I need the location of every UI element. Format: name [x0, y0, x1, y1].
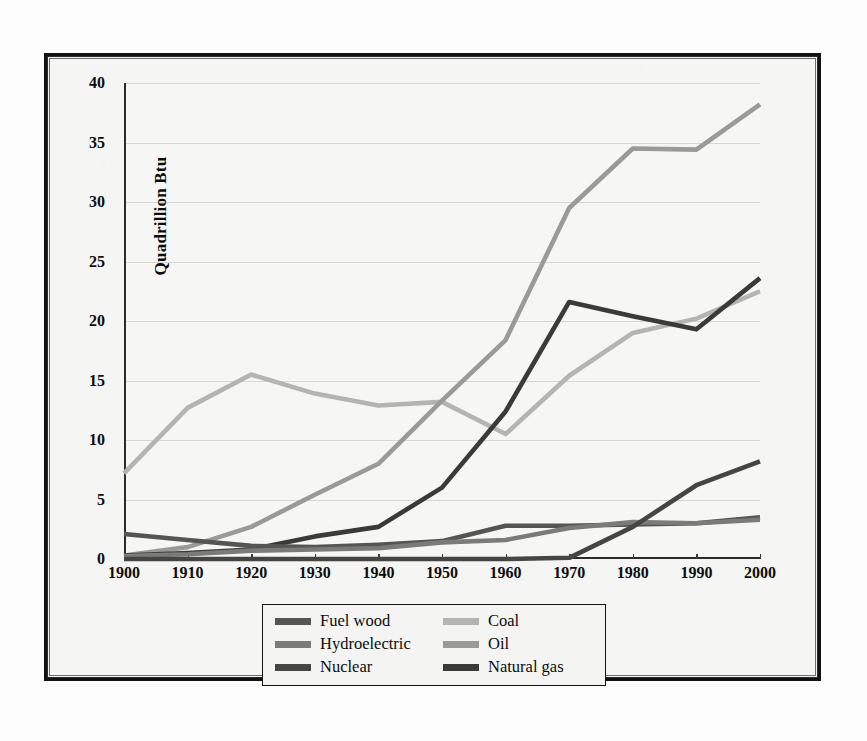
figure-frame: Quadrillion Btu 051015202530354019001910…: [44, 53, 821, 681]
x-tick-label: 1950: [407, 564, 477, 582]
legend-label: Fuel wood: [320, 612, 390, 631]
legend: Fuel woodCoalHydroelectricOilNuclearNatu…: [262, 604, 606, 686]
legend-label: Nuclear: [320, 658, 372, 677]
legend-swatch-icon: [443, 618, 479, 625]
legend-swatch-icon: [443, 664, 479, 671]
y-tick-label: 10: [53, 431, 105, 449]
x-tick-label: 1900: [89, 564, 159, 582]
x-tick-label: 2000: [725, 564, 795, 582]
y-tick-label: 35: [53, 134, 105, 152]
legend-item[interactable]: Hydroelectric: [275, 635, 443, 654]
y-tick-label: 20: [53, 312, 105, 330]
series-line: [124, 278, 760, 555]
legend-swatch-icon: [275, 618, 311, 625]
y-axis-title: Quadrillion Btu: [151, 96, 171, 336]
y-tick-label: 5: [53, 491, 105, 509]
legend-label: Oil: [488, 635, 509, 654]
legend-swatch-icon: [275, 664, 311, 671]
y-tick-label: 15: [53, 372, 105, 390]
plot-area: [124, 83, 760, 559]
x-tick-mark: [760, 554, 761, 559]
legend-item[interactable]: Coal: [443, 612, 593, 631]
legend-label: Hydroelectric: [320, 635, 411, 654]
series-line: [124, 291, 760, 473]
legend-swatch-icon: [443, 641, 479, 648]
legend-item[interactable]: Fuel wood: [275, 612, 443, 631]
series-lines: [124, 83, 760, 559]
legend-item[interactable]: Oil: [443, 635, 593, 654]
legend-item[interactable]: Nuclear: [275, 658, 443, 677]
legend-label: Natural gas: [488, 658, 564, 677]
x-tick-label: 1920: [216, 564, 286, 582]
x-tick-label: 1940: [343, 564, 413, 582]
legend-item[interactable]: Natural gas: [443, 658, 593, 677]
x-tick-label: 1980: [598, 564, 668, 582]
y-tick-label: 30: [53, 193, 105, 211]
legend-grid: Fuel woodCoalHydroelectricOilNuclearNatu…: [275, 612, 593, 677]
y-tick-label: 40: [53, 74, 105, 92]
y-tick-label: 25: [53, 253, 105, 271]
x-tick-label: 1960: [471, 564, 541, 582]
x-tick-label: 1990: [661, 564, 731, 582]
x-tick-label: 1910: [153, 564, 223, 582]
legend-label: Coal: [488, 612, 519, 631]
figure-page: Quadrillion Btu 051015202530354019001910…: [0, 0, 867, 741]
legend-swatch-icon: [275, 641, 311, 648]
x-tick-label: 1930: [280, 564, 350, 582]
x-tick-label: 1970: [534, 564, 604, 582]
